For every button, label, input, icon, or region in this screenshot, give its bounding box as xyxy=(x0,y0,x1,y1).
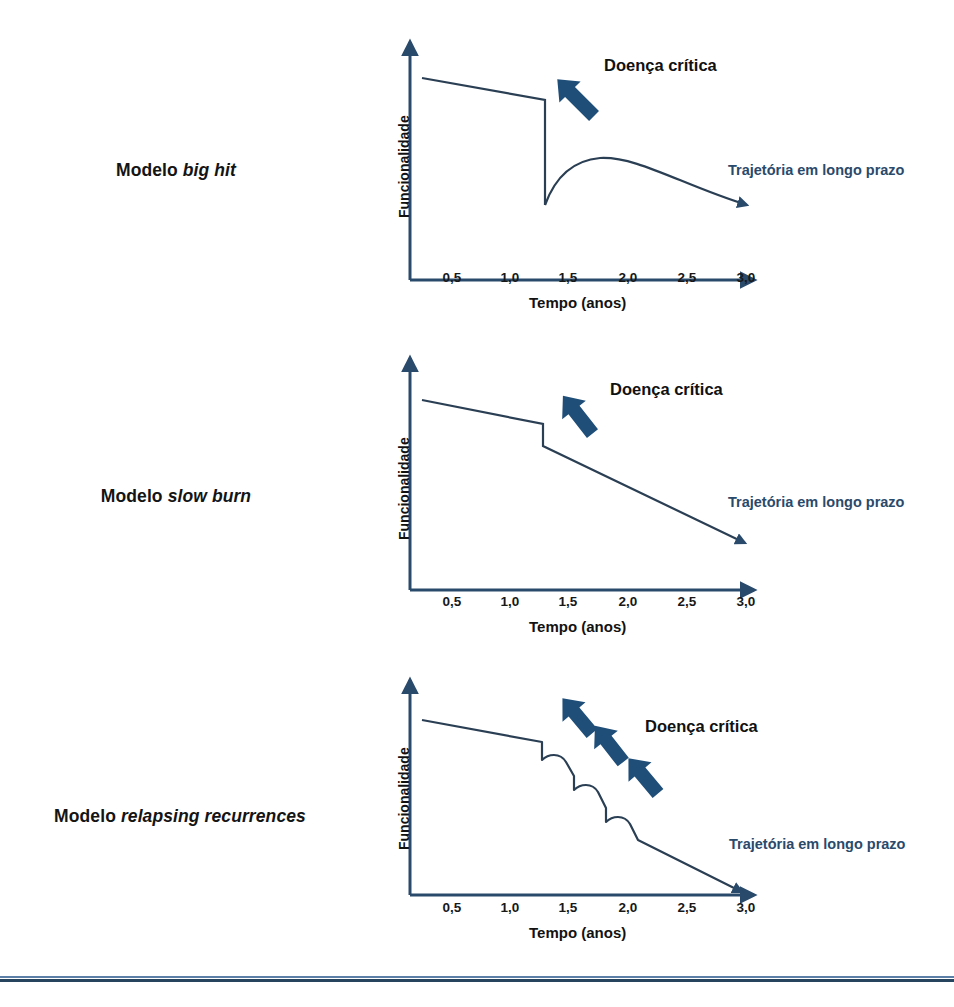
bottom-divider-rule xyxy=(0,976,954,983)
x-tick-2: 1,5 xyxy=(559,900,578,915)
y-axis-title-big-hit: Funcionalidade xyxy=(396,115,412,218)
model-caption-relapsing: Modelo relapsing recurrences xyxy=(0,806,370,827)
annotation-critical-illness-big-hit: Doença crítica xyxy=(604,56,717,75)
caption-regular-text: Modelo xyxy=(54,806,116,826)
x-tick-1: 1,0 xyxy=(501,900,520,915)
x-axis-title-slow-burn: Tempo (anos) xyxy=(529,618,626,635)
caption-regular-text: Modelo xyxy=(101,486,163,506)
x-tick-4: 2,5 xyxy=(678,270,697,285)
annotation-critical-illness-relapsing: Doença crítica xyxy=(645,717,758,736)
annotation-critical-illness-slow-burn: Doença crítica xyxy=(610,380,723,399)
divider-line-upper xyxy=(0,976,954,978)
caption-regular-text: Modelo xyxy=(116,160,178,180)
annotation-trajectory-slow-burn: Trajetória em longo prazo xyxy=(728,494,904,510)
x-tick-3: 2,0 xyxy=(619,594,638,609)
caption-italic-text: big hit xyxy=(183,160,236,180)
caption-italic-text: relapsing recurrences xyxy=(121,806,306,826)
x-axis-title-relapsing: Tempo (anos) xyxy=(529,924,626,941)
model-caption-big-hit: Modelo big hit xyxy=(0,160,352,181)
critical-illness-arrow-icon xyxy=(547,69,605,127)
x-tick-0: 0,5 xyxy=(443,900,462,915)
x-tick-5: 3,0 xyxy=(737,270,756,285)
y-axis-title-relapsing: Funcionalidade xyxy=(396,747,412,850)
x-tick-1: 1,0 xyxy=(501,594,520,609)
plot-relapsing xyxy=(352,650,954,980)
x-tick-4: 2,5 xyxy=(678,594,697,609)
x-tick-0: 0,5 xyxy=(443,270,462,285)
annotation-trajectory-relapsing: Trajetória em longo prazo xyxy=(729,836,905,852)
panel-big-hit: Modelo big hit Funcionalidade xyxy=(0,0,954,330)
x-tick-4: 2,5 xyxy=(678,900,697,915)
x-tick-3: 2,0 xyxy=(619,270,638,285)
data-curve-big-hit xyxy=(422,78,545,205)
panel-relapsing-recurrences: Modelo relapsing recurrences xyxy=(0,650,954,980)
panel-slow-burn: Modelo slow burn Funcionalidade 0,5 1,0 … xyxy=(0,328,954,658)
caption-italic-text: slow burn xyxy=(168,486,252,506)
annotation-trajectory-big-hit: Trajetória em longo prazo xyxy=(728,162,904,178)
y-axis-title-slow-burn: Funcionalidade xyxy=(396,437,412,540)
data-curve-recovery-big-hit xyxy=(545,158,747,205)
x-tick-3: 2,0 xyxy=(619,900,638,915)
model-caption-slow-burn: Modelo slow burn xyxy=(0,486,352,507)
x-tick-2: 1,5 xyxy=(559,594,578,609)
figure-root: Modelo big hit Funcionalidade xyxy=(0,0,954,1007)
critical-illness-arrow-icon xyxy=(551,387,604,443)
x-tick-2: 1,5 xyxy=(559,270,578,285)
x-tick-5: 3,0 xyxy=(737,900,756,915)
x-tick-5: 3,0 xyxy=(737,594,756,609)
x-tick-1: 1,0 xyxy=(501,270,520,285)
divider-line-lower xyxy=(0,979,954,982)
x-axis-title-big-hit: Tempo (anos) xyxy=(529,294,626,311)
data-curve-relapsing xyxy=(422,720,742,892)
x-tick-0: 0,5 xyxy=(443,594,462,609)
